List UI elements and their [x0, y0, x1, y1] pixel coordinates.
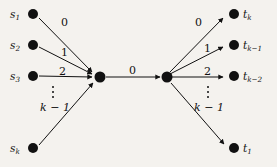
node-hub-right [162, 72, 173, 83]
vertical-dots-left [52, 86, 54, 101]
node-tk-1 [229, 40, 239, 50]
edge-label-left-k-minus-1: k − 1 [40, 102, 70, 113]
edge-sk-hub [39, 83, 93, 145]
edge-label-right-1: 1 [204, 43, 211, 54]
source-nodes [28, 9, 38, 153]
node-label-t1: t1 [243, 143, 252, 155]
edge-label-center-0: 0 [129, 65, 136, 76]
edge-label-right-k-minus-1: k − 1 [194, 102, 224, 113]
node-label-sk: sk [10, 143, 20, 155]
vertical-dots-right [207, 86, 209, 101]
node-label-s1: s1 [10, 9, 20, 21]
node-label-tk-2: tk−2 [243, 71, 262, 83]
right-fan-edges [170, 18, 224, 144]
node-label-tk: tk [243, 9, 252, 21]
left-fan-edges [39, 18, 93, 145]
graph-figure: s1 s2 s3 sk tk tk−1 tk−2 t1 0 1 2 k − 1 … [0, 0, 277, 167]
node-sk [28, 143, 38, 153]
edge-label-left-1: 1 [61, 47, 68, 58]
edge-label-right-0: 0 [195, 17, 202, 28]
edge-hub-tk1 [170, 47, 223, 74]
node-label-tk-1: tk−1 [243, 40, 262, 52]
edge-label-left-0: 0 [61, 17, 68, 28]
edge-label-left-2: 2 [59, 66, 66, 77]
node-s1 [28, 9, 38, 19]
node-tk-2 [229, 71, 239, 81]
node-label-s2: s2 [10, 40, 20, 52]
node-s2 [28, 40, 38, 50]
node-s3 [28, 71, 38, 81]
node-hub-left [95, 72, 106, 83]
node-tk [229, 9, 239, 19]
edge-label-right-2: 2 [204, 66, 211, 77]
node-label-s3: s3 [10, 71, 20, 83]
graph-canvas [0, 0, 277, 167]
target-nodes [229, 9, 239, 153]
node-t1 [229, 143, 239, 153]
